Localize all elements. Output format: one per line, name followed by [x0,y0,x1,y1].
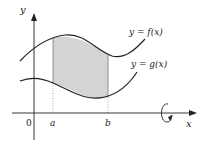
x-axis-arrow-icon [189,110,197,116]
y-axis-label: y [19,4,26,15]
f-curve-label: y = f(x) [128,27,163,37]
y-axis-arrow-icon [31,13,37,21]
revolution-diagram: y x 0 a b y = f(x) y = g(x) [0,0,205,152]
a-label: a [50,118,55,128]
shaded-region [53,37,108,99]
x-axis-label: x [186,118,192,129]
b-label: b [105,118,111,128]
g-curve-label: y = g(x) [130,59,168,69]
origin-label: 0 [26,118,32,128]
